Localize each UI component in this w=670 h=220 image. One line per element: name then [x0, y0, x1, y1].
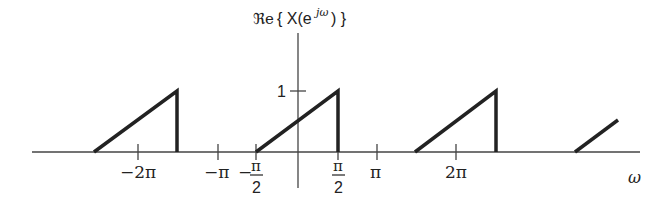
svg-text:2: 2 — [334, 179, 343, 196]
segment-period-4pi-partial — [575, 120, 618, 152]
svg-text:ℜe: ℜe — [253, 10, 274, 28]
svg-text:π: π — [333, 157, 343, 175]
plot-canvas: 1 −2π −π − π 2 π 2 π 2π ω ℜe { X(e jω ) … — [0, 0, 670, 220]
x-tick-label-pi-over-2: π 2 — [332, 157, 345, 196]
x-tick-label-2pi: 2π — [445, 162, 467, 182]
segment-period-0 — [256, 91, 338, 152]
svg-text:2: 2 — [252, 179, 261, 196]
y-axis-label: ℜe { X(e jω ) } — [253, 6, 347, 28]
x-tick-label-minus-pi: −π — [204, 162, 229, 182]
svg-text:) }: ) } — [331, 10, 347, 27]
x-tick-label-pi: π — [370, 162, 381, 182]
segment-period-2pi — [415, 91, 496, 152]
x-axis-label: ω — [628, 168, 641, 187]
y-tick-label-1: 1 — [277, 83, 286, 100]
segment-period-minus-2pi — [94, 91, 177, 152]
x-tick-label-minus-2pi: −2π — [120, 162, 156, 182]
svg-text:{ X(e: { X(e — [277, 10, 312, 27]
data-series — [94, 91, 618, 152]
svg-text:π: π — [251, 157, 261, 175]
x-tick-label-minus-pi-over-2: − π 2 — [238, 157, 263, 196]
svg-text:jω: jω — [313, 6, 328, 19]
